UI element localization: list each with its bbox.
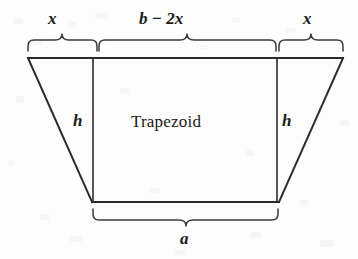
label-a-bottom-base: a — [180, 230, 189, 247]
label-b-minus-2x: b − 2x — [139, 10, 183, 27]
brace-top-right — [279, 34, 343, 51]
trapezoid-figure: x b − 2x x h h Trapezoid a — [0, 0, 358, 259]
label-x-right: x — [303, 10, 312, 27]
bottom-brace — [93, 209, 278, 226]
brace-top-left — [28, 34, 97, 51]
top-braces — [28, 34, 343, 51]
label-b-minus-2x-text: b − 2x — [139, 9, 183, 28]
label-x-left: x — [48, 10, 57, 27]
label-h-right: h — [282, 112, 291, 129]
brace-bottom-a — [93, 209, 278, 226]
brace-top-middle — [99, 34, 276, 51]
label-trapezoid-interior: Trapezoid — [131, 113, 201, 130]
trapezoid-right-leg — [279, 58, 343, 202]
trapezoid-left-leg — [28, 58, 92, 202]
label-h-left: h — [73, 112, 82, 129]
